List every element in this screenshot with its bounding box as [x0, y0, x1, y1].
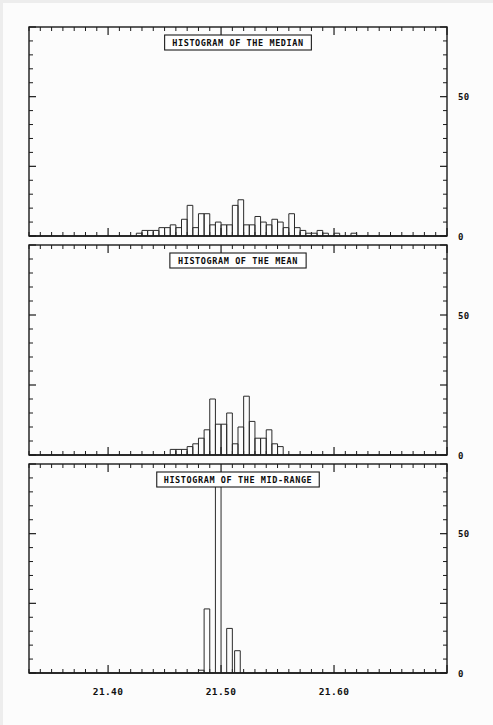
y-axis-tick-label: 50	[458, 529, 469, 539]
histogram-bar	[227, 628, 233, 673]
histogram-bar	[204, 609, 210, 673]
x-axis-tick-label: 21.50	[206, 686, 237, 697]
plot-sheet: 500HISTOGRAM OF THE MEDIAN500HISTOGRAM O…	[0, 0, 493, 725]
y-axis-tick-label: 0	[458, 669, 464, 679]
panel-title-text: HISTOGRAM OF THE MID-RANGE	[164, 475, 313, 485]
histogram-bar	[198, 670, 204, 673]
panel-title-box	[157, 472, 320, 487]
histogram-panel-midrange: 500HISTOGRAM OF THE MID-RANGE21.4021.502…	[0, 0, 493, 725]
histogram-bar	[215, 472, 221, 673]
x-axis-tick-label: 21.40	[93, 686, 124, 697]
x-axis-tick-label: 21.60	[319, 686, 350, 697]
plot-frame	[29, 464, 447, 673]
histogram-bar	[235, 651, 241, 673]
